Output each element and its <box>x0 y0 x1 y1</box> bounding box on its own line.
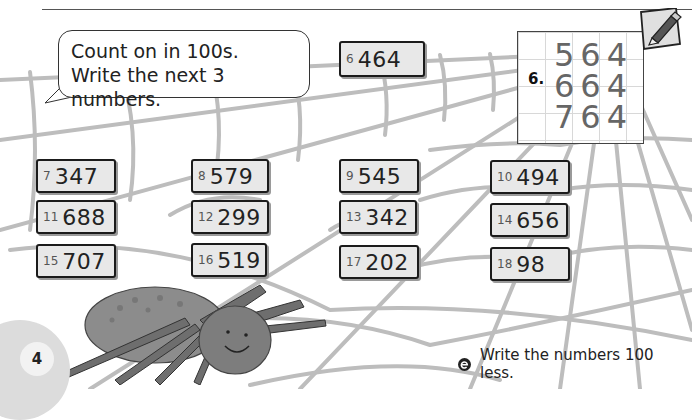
question-number: 11 <box>43 210 58 224</box>
extension-text: Write the numbers 100 less. <box>480 346 692 382</box>
question-box-13[interactable]: 13 342 <box>339 200 417 234</box>
question-value: 98 <box>516 252 545 277</box>
question-box-7[interactable]: 7 347 <box>36 159 116 193</box>
question-number: 7 <box>43 169 51 183</box>
question-number: 13 <box>346 210 361 224</box>
question-number: 16 <box>198 253 213 267</box>
question-box-14[interactable]: 14 656 <box>490 203 568 237</box>
question-box-15[interactable]: 15 707 <box>36 244 116 278</box>
question-value: 707 <box>62 249 106 274</box>
question-value: 299 <box>217 205 261 230</box>
question-number: 12 <box>198 210 213 224</box>
question-value: 494 <box>516 165 560 190</box>
extension-e-icon <box>458 358 471 371</box>
top-rule <box>42 9 692 10</box>
question-value: 347 <box>55 164 99 189</box>
question-box-6[interactable]: 6 464 <box>339 41 425 77</box>
question-number: 15 <box>43 254 58 268</box>
question-box-10[interactable]: 10 494 <box>490 160 570 194</box>
example-label: 6. <box>528 70 544 88</box>
example-row-3: 764 <box>554 102 633 133</box>
instruction-line-2: Write the next 3 numbers. <box>71 63 309 111</box>
page-number: 4 <box>20 342 54 376</box>
question-box-18[interactable]: 18 98 <box>490 247 570 281</box>
question-box-8[interactable]: 8 579 <box>191 159 269 193</box>
worked-example-card: 6. 564 664 764 <box>517 31 644 144</box>
question-value: 545 <box>358 164 402 189</box>
question-number: 8 <box>198 169 206 183</box>
spider-illustration <box>60 280 340 385</box>
pencil-icon <box>638 8 684 50</box>
question-number: 10 <box>497 170 512 184</box>
question-number: 17 <box>346 255 361 269</box>
question-value: 342 <box>365 205 409 230</box>
question-value: 688 <box>62 205 106 230</box>
question-value: 464 <box>358 47 402 72</box>
example-rows: 564 664 764 <box>554 40 633 133</box>
question-box-11[interactable]: 11 688 <box>36 200 116 234</box>
question-value: 519 <box>217 248 261 273</box>
instruction-line-1: Count on in 100s. <box>71 39 309 63</box>
question-value: 579 <box>210 164 254 189</box>
question-box-9[interactable]: 9 545 <box>339 159 419 193</box>
extension-instruction: Write the numbers 100 less. <box>458 346 692 382</box>
question-box-17[interactable]: 17 202 <box>339 245 419 279</box>
question-box-16[interactable]: 16 519 <box>191 243 267 277</box>
question-number: 18 <box>497 257 512 271</box>
question-number: 14 <box>497 213 512 227</box>
question-value: 202 <box>365 250 409 275</box>
question-number: 6 <box>346 52 354 66</box>
question-number: 9 <box>346 169 354 183</box>
question-value: 656 <box>516 208 560 233</box>
instruction-bubble: Count on in 100s. Write the next 3 numbe… <box>58 30 310 98</box>
question-box-12[interactable]: 12 299 <box>191 200 269 234</box>
